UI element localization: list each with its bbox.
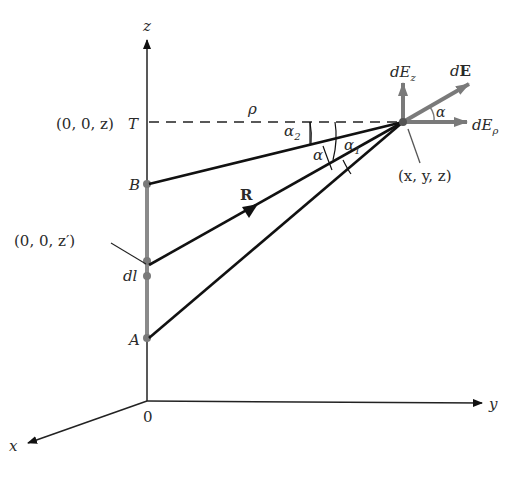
B-label: B — [128, 176, 140, 194]
vector-R — [149, 122, 403, 265]
dE-label: dE — [450, 62, 471, 80]
source-leader-line — [111, 243, 146, 264]
R-label: R — [240, 186, 253, 204]
field-point-leader — [408, 129, 420, 163]
origin-label: 0 — [143, 408, 153, 426]
A-label: A — [127, 331, 140, 349]
x-axis — [28, 401, 147, 443]
alpha2-label: α2 — [284, 122, 301, 142]
alpha-arc — [333, 122, 336, 160]
alpha-field-label: α — [436, 104, 446, 120]
field-components — [399, 83, 469, 163]
dEz-label: dEz — [390, 63, 417, 83]
point-dl-bottom — [143, 272, 151, 280]
dl-label: dl — [123, 267, 138, 285]
alpha-field-arc — [430, 107, 434, 122]
T-label: T — [128, 115, 139, 133]
alpha1-label: α1 — [344, 136, 361, 156]
field-diagram: z y x 0 (0, 0, z) T B A (0, 0, z′) dl (x… — [0, 0, 530, 481]
z-axis-label: z — [142, 17, 151, 35]
rho-label: ρ — [247, 100, 257, 118]
dErho-label: dEρ — [472, 116, 499, 136]
x-axis-label: x — [9, 437, 18, 455]
field-point — [399, 118, 407, 126]
y-axis — [147, 401, 482, 403]
y-axis-label: y — [488, 395, 498, 413]
T-coordinate-label: (0, 0, z) — [56, 115, 114, 133]
field-point-coordinate-label: (x, y, z) — [398, 167, 452, 185]
source-coordinate-label: (0, 0, z′) — [14, 232, 75, 250]
alpha-label: α — [313, 146, 323, 164]
line-A-to-P — [149, 122, 403, 338]
